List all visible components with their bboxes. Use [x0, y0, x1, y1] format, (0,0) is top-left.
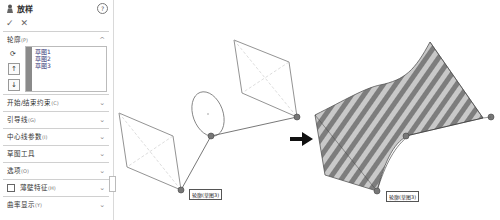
connector-point[interactable] — [294, 114, 300, 120]
graphics-viewport[interactable] — [0, 0, 500, 220]
profile-callout-left[interactable]: 轮廓(草图3) — [189, 189, 222, 200]
sketch-3-diamond[interactable] — [234, 40, 297, 117]
sketch-2-ellipse[interactable] — [186, 87, 230, 140]
connector-point[interactable] — [208, 133, 214, 139]
arrow-right-icon — [290, 132, 313, 146]
loft-surface-preview[interactable] — [315, 42, 483, 191]
sketch-1-diamond[interactable] — [119, 113, 181, 190]
connector-point[interactable] — [403, 133, 409, 139]
connector-point[interactable] — [178, 187, 184, 193]
profile-callout-right[interactable]: 轮廓(草图3) — [386, 191, 419, 202]
connector-point[interactable] — [374, 188, 380, 194]
